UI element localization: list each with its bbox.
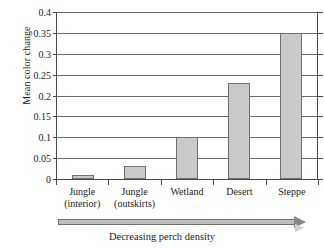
x-axis-category-label: Wetland <box>161 186 213 209</box>
x-axis-category-label-line1: Steppe <box>278 186 305 197</box>
arrow-head-icon <box>294 216 306 228</box>
bar-slot <box>57 12 109 179</box>
x-axis-category-label: Desert <box>213 186 265 209</box>
x-axis-category-label: Jungle(outskirts) <box>108 186 160 209</box>
bar <box>124 166 146 179</box>
y-axis-tick-right <box>317 96 323 97</box>
x-axis-tick <box>213 180 214 185</box>
x-axis-labels: Jungle(interior)Jungle(outskirts)Wetland… <box>56 186 318 209</box>
y-axis-tick-right <box>317 33 323 34</box>
x-axis-tick <box>266 180 267 185</box>
x-axis-tick <box>318 180 319 185</box>
y-axis-tick-label: 0.4 <box>39 7 52 18</box>
x-axis-tick <box>108 180 109 185</box>
bar-slot <box>213 12 265 179</box>
x-axis-category-label-line1: Jungle <box>122 186 148 197</box>
y-axis-tick-label: 0.15 <box>34 111 52 122</box>
bar <box>228 83 250 179</box>
x-axis-category-label-line2: (outskirts) <box>108 198 160 210</box>
y-axis-tick-label: 0.2 <box>39 90 52 101</box>
decreasing-perch-density-arrow <box>58 216 306 229</box>
bar <box>280 33 302 179</box>
y-axis-tick-label: 0.05 <box>34 153 52 164</box>
x-axis-category-label: Steppe <box>266 186 318 209</box>
bar <box>176 137 198 179</box>
bar-slot <box>265 12 317 179</box>
x-axis-tick <box>161 180 162 185</box>
bar-slot <box>161 12 213 179</box>
x-axis-title: Decreasing perch density <box>0 231 324 242</box>
x-axis-category-label-line1: Jungle <box>69 186 95 197</box>
x-axis-category-label-line2: (interior) <box>56 198 108 210</box>
y-axis-tick-label: 0.1 <box>39 132 52 143</box>
x-axis-ticks <box>56 180 318 185</box>
bar-slot <box>109 12 161 179</box>
y-axis-tick-label: 0.25 <box>34 69 52 80</box>
arrow-shaft-icon <box>58 219 294 225</box>
y-axis-title: Mean color change <box>21 0 32 136</box>
y-axis-tick-label: 0.3 <box>39 48 52 59</box>
x-axis-category-label: Jungle(interior) <box>56 186 108 209</box>
y-axis-tick-label: 0 <box>46 174 51 185</box>
plot-area: 00.050.10.150.20.250.30.350.4 <box>56 12 318 180</box>
x-axis-category-label-line1: Desert <box>226 186 252 197</box>
bar <box>72 175 94 179</box>
x-axis-category-label-line1: Wetland <box>170 186 203 197</box>
y-axis-tick-right <box>317 158 323 159</box>
bar-series <box>57 12 317 179</box>
bar-chart-figure: Mean color change 00.050.10.150.20.250.3… <box>0 0 324 248</box>
y-axis-tick-right <box>317 116 323 117</box>
y-axis-tick-label: 0.35 <box>34 27 52 38</box>
x-axis-tick <box>56 180 57 185</box>
y-axis-tick-right <box>317 137 323 138</box>
y-axis-tick-right <box>317 12 323 13</box>
y-axis-tick-right <box>317 75 323 76</box>
y-axis-tick-right <box>317 54 323 55</box>
